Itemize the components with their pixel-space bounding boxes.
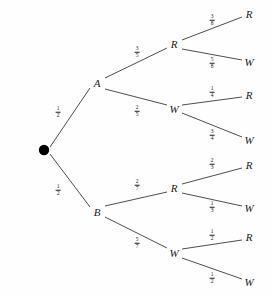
- fraction-denominator: 2: [56, 112, 61, 119]
- fraction-denominator: 7: [135, 243, 140, 250]
- probability-label-p-root-A: 12: [56, 106, 61, 119]
- probability-label-p-B-R: 27: [135, 179, 140, 192]
- tree-node-A-R-R: R: [246, 9, 253, 20]
- tree-node-B-W-W: W: [244, 277, 253, 288]
- tree-edge-B-to-B-R: [105, 192, 167, 206]
- tree-node-B-W: W: [169, 248, 178, 259]
- probability-tree-diagram: ABRWRWRWRWRWRW 1212352527573858143423131…: [0, 0, 272, 298]
- probability-label-p-B-W: 57: [135, 237, 140, 250]
- tree-edge-A-to-A-W: [105, 89, 167, 105]
- tree-node-A-R-W: W: [244, 57, 253, 68]
- fraction-denominator: 5: [135, 52, 140, 59]
- tree-edge-B-R-to-B-R-R: [182, 168, 242, 184]
- tree-node-B-W-R: R: [246, 232, 253, 243]
- tree-node-A-R: R: [171, 39, 178, 50]
- probability-label-p-B-W-R: 12: [210, 229, 215, 242]
- fraction-denominator: 5: [135, 111, 140, 118]
- tree-node-A-W: W: [169, 104, 178, 115]
- tree-node-B-R: R: [171, 183, 178, 194]
- probability-label-p-root-B: 12: [56, 184, 61, 197]
- fraction-denominator: 7: [135, 185, 140, 192]
- probability-label-p-B-W-W: 12: [210, 272, 215, 285]
- fraction-denominator: 8: [210, 20, 215, 27]
- tree-node-B-R-R: R: [246, 160, 253, 171]
- probability-label-p-A-R-W: 58: [210, 57, 215, 70]
- tree-node-A-W-R: R: [246, 90, 253, 101]
- probability-label-p-A-R-R: 38: [210, 14, 215, 27]
- tree-node-B-R-W: W: [244, 203, 253, 214]
- root-node-dot: [39, 145, 49, 155]
- tree-node-B: B: [94, 207, 101, 218]
- fraction-denominator: 2: [210, 235, 215, 242]
- probability-label-p-A-R: 35: [135, 46, 140, 59]
- fraction-denominator: 2: [56, 190, 61, 197]
- probability-label-p-A-W-W: 34: [210, 129, 215, 142]
- probability-label-p-A-W-R: 14: [210, 86, 215, 99]
- fraction-denominator: 3: [210, 207, 215, 214]
- fraction-denominator: 8: [210, 63, 215, 70]
- tree-edge-root-to-B: [50, 154, 90, 207]
- fraction-denominator: 2: [210, 278, 215, 285]
- tree-edge-B-W-to-B-W-R: [182, 240, 242, 249]
- tree-node-A-W-W: W: [244, 135, 253, 146]
- tree-node-A: A: [94, 78, 101, 89]
- fraction-denominator: 4: [210, 135, 215, 142]
- probability-label-p-B-R-R: 23: [210, 158, 215, 171]
- probability-label-p-A-W: 25: [135, 105, 140, 118]
- fraction-denominator: 4: [210, 92, 215, 99]
- probability-label-p-B-R-W: 13: [210, 201, 215, 214]
- fraction-denominator: 3: [210, 164, 215, 171]
